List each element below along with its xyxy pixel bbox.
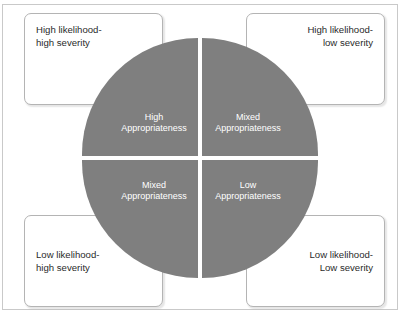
quadrant-top-right-text: Mixed Appropriateness	[211, 112, 285, 135]
quadrant-diagram: High likelihood- high severity High like…	[0, 0, 403, 319]
quadrant-mixed-appropriateness-top: Mixed Appropriateness	[202, 38, 318, 156]
quadrant-bottom-left-text: Mixed Appropriateness	[117, 180, 191, 203]
quadrant-top-left-text: High Appropriateness	[117, 112, 191, 135]
quadrant-bottom-right-text: Low Appropriateness	[211, 180, 285, 203]
quadrant-low-appropriateness: Low Appropriateness	[202, 160, 318, 278]
quadrant-high-appropriateness: High Appropriateness	[82, 38, 198, 156]
label-box-bottom-right-text: Low likelihood- Low severity	[310, 248, 373, 274]
segmented-circle: High Appropriateness Mixed Appropriatene…	[82, 38, 318, 278]
quadrant-mixed-appropriateness-bottom: Mixed Appropriateness	[82, 160, 198, 278]
